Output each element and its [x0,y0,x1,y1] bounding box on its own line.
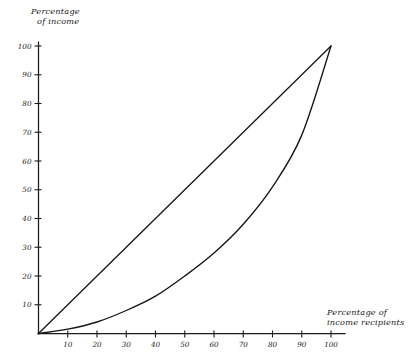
y-tick-label: 20 [21,272,32,281]
x-tick-label: 10 [63,340,73,349]
x-axis-title-line1: Percentage of [326,307,389,317]
y-tick-label: 30 [22,243,32,252]
y-tick-label: 80 [22,99,32,108]
y-tick-label: 70 [22,128,32,137]
x-tick-label: 30 [122,340,132,349]
x-axis-title-line2: income recipients [327,317,404,327]
y-tick-label: 40 [21,214,32,223]
x-tick-label: 60 [209,340,219,349]
y-tick-label: 50 [22,185,32,194]
x-tick-label: 40 [150,340,161,349]
x-tick-label: 20 [91,340,102,349]
lorenz-curve-figure: Percentage of income Percentage of incom… [0,0,411,358]
y-axis-title-line1: Percentage [30,6,80,16]
x-tick-label: 100 [324,340,338,349]
y-tick-label: 100 [18,42,32,51]
y-tick-label: 90 [22,70,32,79]
x-tick-label: 70 [239,340,249,349]
x-tick-label: 80 [268,340,278,349]
y-tick-label: 10 [22,300,32,309]
line-of-equality [39,46,332,334]
y-axis-title-line2: of income [37,16,79,26]
x-tick-label: 90 [297,340,307,349]
x-tick-label: 50 [180,340,190,349]
y-tick-label: 60 [22,157,32,166]
